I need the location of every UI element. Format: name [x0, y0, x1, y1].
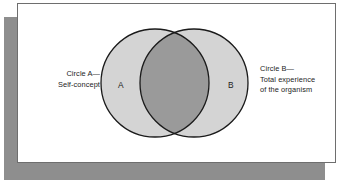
circle-b-label: Circle B— Total experience of the organi… [260, 64, 342, 96]
circle-a-label-line-2: Self-concept [22, 80, 100, 91]
circle-b-label-line-2: Total experience [260, 75, 342, 86]
circle-b-letter: B [228, 80, 234, 90]
circle-b-label-line-3: of the organism [260, 85, 342, 96]
circle-a-label: Circle A— Self-concept [22, 69, 100, 90]
circle-a-letter: A [118, 80, 124, 90]
circle-a-label-line-1: Circle A— [22, 69, 100, 80]
figure-canvas: Circle A— Self-concept Circle B— Total e… [0, 0, 342, 184]
circle-b-label-line-1: Circle B— [260, 64, 342, 75]
